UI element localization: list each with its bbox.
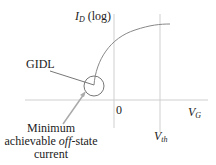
arrow-head-icon [80, 91, 86, 97]
annotation-arrow [63, 94, 84, 124]
x-axis-label: VG [188, 106, 201, 122]
gidl-label: GIDL [26, 58, 55, 71]
id-vg-curve [94, 24, 170, 85]
min-offstate-annotation: Minimum achievable off-state current [4, 122, 98, 161]
threshold-label: Vth [154, 130, 168, 146]
origin-label: 0 [116, 104, 122, 117]
y-axis-label: ID (log) [75, 10, 111, 26]
gidl-circle [84, 76, 104, 96]
annotation-line-3: current [4, 148, 98, 161]
